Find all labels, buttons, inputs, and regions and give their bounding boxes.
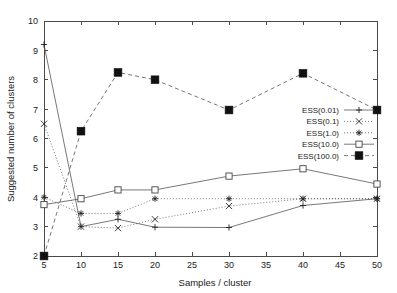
x-tick-label: 25 xyxy=(187,260,197,270)
x-tick-label: 5 xyxy=(41,260,46,270)
marker-filled-square xyxy=(373,106,381,114)
series-ess-10-0- xyxy=(41,166,380,208)
x-axis-title: Samples / cluster xyxy=(179,277,252,288)
y-axis-title: Suggested number of clusters xyxy=(5,76,16,202)
y-tick-label: 8 xyxy=(33,75,38,85)
y-tick-label: 9 xyxy=(33,46,38,56)
y-tick-label: 2 xyxy=(33,251,38,261)
legend-label: ESS(0.01) xyxy=(302,106,339,115)
y-tick-label: 4 xyxy=(33,193,38,203)
x-tick-label: 50 xyxy=(372,260,382,270)
marker-filled-square xyxy=(225,106,233,114)
marker-open-square xyxy=(152,187,158,193)
series-path xyxy=(44,197,377,213)
marker-filled-square xyxy=(299,69,307,77)
marker-open-square xyxy=(226,173,232,179)
marker-filled-square xyxy=(77,127,85,135)
line-chart-svg: 5101520253035404550 2345678910 ESS(0.01)… xyxy=(0,0,397,293)
chart-legend: ESS(0.01)ESS(0.1)ESS(1.0)ESS(10.0)ESS(10… xyxy=(298,106,374,161)
x-tick-label: 30 xyxy=(224,260,234,270)
plot-border xyxy=(44,21,377,256)
marker-open-square xyxy=(356,141,362,147)
series-ess-100-0- xyxy=(40,69,381,260)
x-tick-label: 45 xyxy=(335,260,345,270)
series-ess-1-0- xyxy=(41,194,380,216)
y-tick-label: 3 xyxy=(33,222,38,232)
marker-open-square xyxy=(41,201,47,207)
x-tick-label: 40 xyxy=(298,260,308,270)
marker-open-square xyxy=(78,196,84,202)
marker-filled-square xyxy=(355,152,363,160)
marker-filled-square xyxy=(40,252,48,260)
marker-filled-square xyxy=(151,76,159,84)
marker-open-square xyxy=(374,181,380,187)
legend-label: ESS(0.1) xyxy=(307,117,340,126)
chart-figure: 5101520253035404550 2345678910 ESS(0.01)… xyxy=(0,0,397,293)
series-path xyxy=(44,169,377,205)
plot-frame xyxy=(44,21,377,256)
x-tick-label: 10 xyxy=(76,260,86,270)
y-tick-label: 10 xyxy=(28,16,38,26)
series-path xyxy=(44,72,377,256)
marker-open-square xyxy=(300,166,306,172)
marker-open-square xyxy=(115,187,121,193)
x-tick-label: 20 xyxy=(150,260,160,270)
y-tick-label: 5 xyxy=(33,163,38,173)
legend-label: ESS(100.0) xyxy=(298,152,340,161)
legend-label: ESS(1.0) xyxy=(307,129,340,138)
y-tick-label: 6 xyxy=(33,134,38,144)
marker-filled-square xyxy=(114,69,122,77)
x-tick-label: 15 xyxy=(113,260,123,270)
legend-label: ESS(10.0) xyxy=(302,140,339,149)
y-tick-label: 7 xyxy=(33,105,38,115)
x-tick-label: 35 xyxy=(261,260,271,270)
